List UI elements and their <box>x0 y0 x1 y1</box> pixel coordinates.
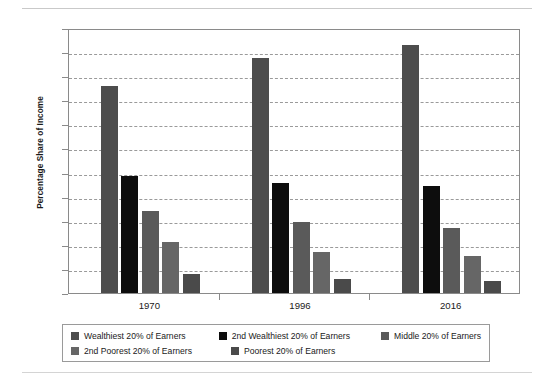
bar <box>183 274 200 293</box>
bar <box>162 242 179 293</box>
bar-chart-figure: Percentage Share of Income 0%5%10%15%20%… <box>0 0 552 385</box>
y-axis-title: Percentage Share of Income <box>36 43 45 263</box>
x-tick-label: 1996 <box>260 300 340 311</box>
legend-swatch-icon <box>71 332 79 340</box>
x-tick-label: 2016 <box>411 300 491 311</box>
bottom-divider <box>22 372 532 373</box>
chart-legend: Wealthiest 20% of Earners2nd Wealthiest … <box>62 324 490 362</box>
legend-item: 2nd Poorest 20% of Earners <box>71 346 231 356</box>
legend-row: 2nd Poorest 20% of EarnersPoorest 20% of… <box>71 344 481 358</box>
x-tick-mark <box>369 294 370 300</box>
bar <box>423 186 440 293</box>
bar <box>484 281 501 293</box>
bar <box>443 228 460 293</box>
x-tick-label: 1970 <box>109 300 189 311</box>
legend-swatch-icon <box>71 347 79 355</box>
bar <box>313 252 330 293</box>
legend-label: 2nd Wealthiest 20% of Earners <box>232 331 350 341</box>
bar <box>402 45 419 293</box>
legend-row: Wealthiest 20% of Earners2nd Wealthiest … <box>71 329 481 343</box>
legend-item: Poorest 20% of Earners <box>231 346 407 356</box>
legend-label: Poorest 20% of Earners <box>244 346 335 356</box>
legend-item: 2nd Wealthiest 20% of Earners <box>219 331 381 341</box>
bar <box>293 222 310 293</box>
legend-label: Middle 20% of Earners <box>394 331 481 341</box>
bar <box>272 183 289 293</box>
legend-swatch-icon <box>219 332 227 340</box>
legend-swatch-icon <box>231 347 239 355</box>
top-divider <box>22 8 532 9</box>
legend-label: 2nd Poorest 20% of Earners <box>84 346 192 356</box>
bar <box>142 211 159 293</box>
plot-area <box>69 30 519 293</box>
legend-item: Middle 20% of Earners <box>381 331 481 341</box>
bar-group-2016 <box>402 30 501 293</box>
plot-frame <box>68 29 520 294</box>
bar <box>464 256 481 293</box>
bar-group-1970 <box>101 30 200 293</box>
x-tick-mark <box>219 294 220 300</box>
bar <box>252 58 269 293</box>
bar-group-1996 <box>252 30 351 293</box>
legend-label: Wealthiest 20% of Earners <box>84 331 186 341</box>
y-tick-mark <box>62 294 68 295</box>
legend-swatch-icon <box>381 332 389 340</box>
legend-item: Wealthiest 20% of Earners <box>71 331 219 341</box>
bar <box>334 279 351 293</box>
bar <box>101 86 118 293</box>
bar <box>121 176 138 293</box>
